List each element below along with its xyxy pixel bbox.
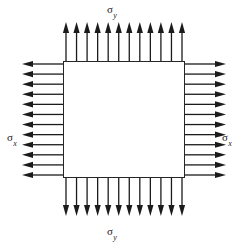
right-arrows-12: [185, 172, 226, 178]
arrow-head: [158, 205, 164, 216]
arrow-head: [22, 172, 33, 178]
arrow-head: [215, 101, 226, 107]
left-arrows-7: [22, 121, 63, 127]
sigma-subscript: y: [113, 11, 117, 20]
arrow-head: [215, 61, 226, 67]
left-arrows-8: [22, 132, 63, 138]
arrow-head: [179, 22, 185, 33]
top-arrows-7: [126, 22, 132, 61]
top-arrows-8: [137, 22, 143, 61]
top-arrows-4: [95, 22, 101, 61]
bottom-arrows-6: [116, 178, 122, 216]
bottom-arrows-7: [126, 178, 132, 216]
right-arrows-1: [185, 61, 226, 67]
arrow-head: [215, 111, 226, 117]
bottom-arrows-12: [179, 178, 185, 216]
sigma-subscript: x: [13, 139, 17, 148]
arrow-head: [215, 81, 226, 87]
top-arrows-2: [73, 22, 79, 61]
arrow-head: [158, 22, 164, 33]
bottom-arrows-4: [95, 178, 101, 216]
arrow-head: [63, 22, 69, 33]
arrow-head: [116, 22, 122, 33]
top-arrows-6: [116, 22, 122, 61]
arrow-head: [22, 61, 33, 67]
label-sigma-y-top: σy: [107, 4, 117, 18]
bottom-arrows-10: [158, 178, 164, 216]
sigma-subscript: y: [113, 233, 117, 242]
left-arrows-1: [22, 61, 63, 67]
left-arrows-2: [22, 71, 63, 77]
arrow-head: [215, 172, 226, 178]
stress-diagram-canvas: [0, 0, 245, 246]
arrow-head: [147, 205, 153, 216]
arrow-head: [116, 205, 122, 216]
label-sigma-y-bottom: σy: [107, 226, 117, 240]
arrow-head: [22, 142, 33, 148]
right-arrows-4: [185, 91, 226, 97]
left-arrows-5: [22, 101, 63, 107]
arrow-head: [215, 152, 226, 158]
label-sigma-x-left: σx: [7, 132, 17, 146]
top-arrows-9: [147, 22, 153, 61]
left-arrows-3: [22, 81, 63, 87]
bottom-arrows-5: [105, 178, 111, 216]
bottom-arrows-1: [63, 178, 69, 216]
arrow-head: [22, 162, 33, 168]
arrow-head: [22, 91, 33, 97]
stress-diagram-figure: σy σy σx σx: [0, 0, 245, 246]
arrow-head: [168, 22, 174, 33]
right-arrows-9: [185, 142, 226, 148]
right-arrows-10: [185, 152, 226, 158]
top-arrows-1: [63, 22, 69, 61]
arrow-head: [63, 205, 69, 216]
label-sigma-x-right: σx: [222, 132, 232, 146]
arrow-head: [126, 22, 132, 33]
arrow-head: [22, 71, 33, 77]
top-arrows-11: [168, 22, 174, 61]
arrow-head: [73, 22, 79, 33]
bottom-arrows-8: [137, 178, 143, 216]
left-arrows-9: [22, 142, 63, 148]
right-arrows-8: [185, 132, 226, 138]
arrow-head: [22, 132, 33, 138]
arrow-head: [105, 205, 111, 216]
left-arrows-11: [22, 162, 63, 168]
arrow-head: [95, 205, 101, 216]
arrow-head: [105, 22, 111, 33]
arrow-head: [137, 205, 143, 216]
arrow-head: [168, 205, 174, 216]
arrow-head: [22, 101, 33, 107]
bottom-arrows-11: [168, 178, 174, 216]
arrow-head: [215, 91, 226, 97]
left-arrows-4: [22, 91, 63, 97]
arrow-head: [147, 22, 153, 33]
arrow-head: [215, 71, 226, 77]
arrow-head: [215, 162, 226, 168]
top-arrows-5: [105, 22, 111, 61]
left-arrows-10: [22, 152, 63, 158]
top-arrows-3: [84, 22, 90, 61]
left-arrows-12: [22, 172, 63, 178]
arrow-head: [215, 121, 226, 127]
left-arrows-6: [22, 111, 63, 117]
right-arrows-7: [185, 121, 226, 127]
top-arrows-10: [158, 22, 164, 61]
sigma-subscript: x: [228, 139, 232, 148]
arrow-head: [84, 205, 90, 216]
arrow-head: [137, 22, 143, 33]
arrow-head: [126, 205, 132, 216]
arrow-head: [84, 22, 90, 33]
arrow-head: [22, 152, 33, 158]
square-element: [64, 62, 185, 178]
arrow-head: [22, 121, 33, 127]
top-arrows-12: [179, 22, 185, 61]
arrow-head: [95, 22, 101, 33]
right-arrows-5: [185, 101, 226, 107]
right-arrows-3: [185, 81, 226, 87]
right-arrows-11: [185, 162, 226, 168]
right-arrows-6: [185, 111, 226, 117]
bottom-arrows-2: [73, 178, 79, 216]
arrow-head: [22, 111, 33, 117]
arrow-head: [22, 81, 33, 87]
